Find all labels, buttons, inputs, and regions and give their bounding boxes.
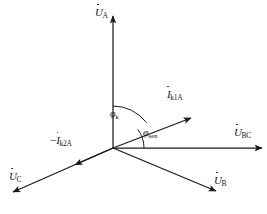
angle-label-phi-sen: φsen xyxy=(143,128,158,138)
phasor-label-minus-i-k2a-sub: k2A xyxy=(59,139,71,148)
phasor-label-u-c: UC xyxy=(9,171,22,182)
phasor-label-u-b-sub: B xyxy=(221,179,226,188)
phasor-label-u-bc-sub: BC xyxy=(241,131,251,140)
phasor-line-minus-i-k2a xyxy=(78,148,113,163)
phasor-label-minus-i-k2a: −Ik2A xyxy=(50,135,72,146)
angle-label-phi-sen-sub: sen xyxy=(148,132,157,140)
phasor-label-u-b: UB xyxy=(214,175,227,186)
figure-caption xyxy=(0,206,267,214)
phasor-label-u-c-sub: C xyxy=(16,175,21,184)
angle-label-phi-k: φk xyxy=(110,109,119,119)
phasor-label-u-bc: UBC xyxy=(234,127,252,138)
phasor-label-i-k1a: Ik1A xyxy=(167,89,183,100)
phasor-label-u-a-sub: A xyxy=(102,11,107,20)
phasor-diagram-figure: UA UBC Ik1A UB UC −Ik2A φk φsen xyxy=(0,0,267,214)
phasor-line-u-b xyxy=(113,148,216,191)
phasor-label-u-a: UA xyxy=(95,7,108,18)
phasor-label-i-k1a-sub: k1A xyxy=(170,93,182,102)
angle-label-phi-k-sub: k xyxy=(115,113,119,121)
phasor-diagram-canvas xyxy=(0,0,267,214)
